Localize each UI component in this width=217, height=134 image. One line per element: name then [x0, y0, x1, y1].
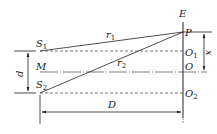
label-O1: O1	[185, 47, 198, 60]
double-slit-diagram: E P O1 O O2 x S1 M S2 d r1 r2 D	[0, 0, 217, 134]
label-d: d	[14, 71, 25, 77]
label-E: E	[178, 8, 187, 19]
label-O: O	[185, 61, 193, 72]
label-M: M	[35, 61, 47, 72]
label-P: P	[184, 27, 192, 38]
label-O2: O2	[185, 88, 198, 101]
label-r1: r1	[106, 29, 115, 42]
label-S2: S2	[36, 79, 47, 92]
label-S1: S1	[36, 38, 47, 51]
label-r2: r2	[117, 57, 126, 70]
label-x: x	[204, 50, 215, 56]
label-D: D	[107, 99, 116, 110]
